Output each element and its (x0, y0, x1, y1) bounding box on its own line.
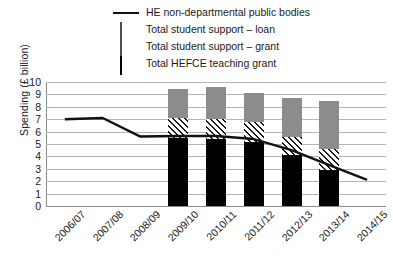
swatch-dotted-grey-icon (120, 39, 122, 58)
bar-2009-10 (168, 89, 188, 206)
y-axis-tick-label: 1 (35, 188, 41, 200)
bar-segment (206, 87, 226, 119)
bar-segment (168, 89, 188, 118)
legend-swatch-key (113, 23, 139, 36)
y-axis-tick-label: 7 (35, 113, 41, 125)
bar-segment (319, 101, 339, 149)
bar-segment (244, 93, 264, 123)
bar-segment (319, 149, 339, 170)
y-axis-title: Spending (£ billion) (18, 17, 30, 163)
bar-segment (168, 138, 188, 206)
y-axis-tick-label: 3 (35, 163, 41, 175)
legend-item-student-support-grant: Total student support – grant (113, 38, 383, 54)
x-axis-tick-label: 2006/07 (52, 208, 87, 243)
legend-label-loan: Total student support – loan (146, 23, 275, 36)
y-axis-tick-label: 9 (35, 88, 41, 100)
legend-swatch-key (113, 57, 139, 70)
x-axis-tick-label: 2012/13 (279, 208, 314, 243)
x-axis-tick-label: 2009/10 (165, 208, 200, 243)
x-axis-tick-label: 2011/12 (241, 208, 276, 243)
y-axis-tick-label: 8 (35, 101, 41, 113)
legend-label-hefce: Total HEFCE teaching grant (146, 57, 276, 70)
bar-2011-12 (244, 93, 264, 206)
y-axis-tick-label: 0 (35, 200, 41, 212)
bar-2010-11 (206, 87, 226, 206)
x-axis-tick-label: 2014/15 (354, 208, 389, 243)
legend-label-grant: Total student support – grant (146, 40, 279, 53)
bar-segment (168, 118, 188, 138)
bar-segment (206, 139, 226, 206)
legend-item-ndpb: HE non-departmental public bodies (113, 4, 383, 20)
x-axis-labels: 2006/072007/082008/092009/102010/112011/… (46, 206, 386, 262)
legend-label-ndpb: HE non-departmental public bodies (146, 6, 310, 19)
y-axis-tick-label: 2 (35, 175, 41, 187)
y-axis-tick-label: 6 (35, 126, 41, 138)
gridline: 10 (46, 82, 386, 83)
legend-item-hefce-teaching-grant: Total HEFCE teaching grant (113, 55, 383, 71)
bar-segment (319, 170, 339, 206)
y-axis-tick-label: 5 (35, 138, 41, 150)
y-axis-tick-label: 10 (29, 76, 41, 88)
bar-2013-14 (319, 101, 339, 206)
chart-legend: HE non-departmental public bodies Total … (113, 4, 383, 72)
legend-line-key-icon (113, 6, 139, 19)
swatch-solid-grey-icon (120, 22, 122, 41)
legend-swatch-key (113, 40, 139, 53)
x-axis-tick-label: 2010/11 (204, 208, 239, 243)
bar-segment (244, 142, 264, 206)
swatch-solid-black-icon (120, 56, 122, 75)
bar-segment (244, 122, 264, 142)
bar-2012-13 (282, 98, 302, 207)
bar-segment (282, 98, 302, 137)
bar-segment (206, 119, 226, 139)
spending-chart: HE non-departmental public bodies Total … (0, 0, 393, 263)
x-axis-tick-label: 2013/14 (316, 208, 351, 243)
x-axis-tick-label: 2008/09 (128, 208, 163, 243)
legend-item-student-support-loan: Total student support – loan (113, 21, 383, 37)
x-axis-tick-label: 2007/08 (90, 208, 125, 243)
bar-segment (282, 155, 302, 206)
y-axis-tick-label: 4 (35, 150, 41, 162)
bar-segment (282, 137, 302, 156)
plot-area: 012345678910 (46, 82, 386, 206)
